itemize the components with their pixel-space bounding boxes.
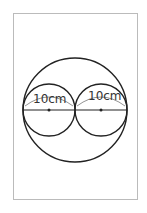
right-diameter-label: 10cm xyxy=(88,89,122,103)
right-center-dot xyxy=(100,109,103,112)
left-diameter-label: 10cm xyxy=(33,92,67,106)
geometry-diagram: 10cm 10cm xyxy=(0,0,147,213)
left-center-dot xyxy=(48,109,51,112)
